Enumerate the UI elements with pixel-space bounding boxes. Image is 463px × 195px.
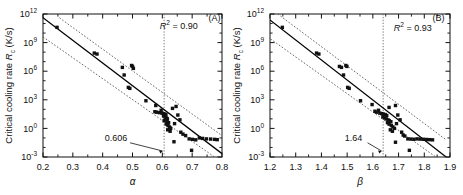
threshold-leader-line bbox=[130, 143, 163, 151]
data-point bbox=[176, 113, 179, 116]
x-tick-label: 1.5 bbox=[341, 162, 354, 172]
data-point bbox=[375, 110, 378, 113]
data-point bbox=[122, 73, 125, 76]
data-point bbox=[348, 87, 351, 90]
data-point bbox=[173, 122, 176, 125]
x-axis-title: α bbox=[130, 176, 136, 187]
data-point bbox=[55, 26, 58, 29]
data-point bbox=[121, 66, 124, 69]
data-point bbox=[172, 140, 175, 143]
panel-tag: (A) bbox=[209, 13, 221, 23]
y-tick-label: 106 bbox=[23, 64, 37, 76]
data-point bbox=[425, 138, 428, 141]
data-point bbox=[281, 26, 284, 29]
y-tick-label: 100 bbox=[250, 122, 264, 134]
y-tick-label: 10-3 bbox=[248, 150, 264, 162]
data-point bbox=[406, 137, 409, 140]
data-point bbox=[418, 137, 421, 140]
data-point bbox=[168, 130, 171, 133]
x-tick-label: 0.5 bbox=[126, 162, 139, 172]
upper-confidence-band bbox=[59, 18, 226, 139]
threshold-label: 0.606 bbox=[105, 133, 128, 143]
data-point bbox=[409, 137, 412, 140]
x-tick-label: 1.2 bbox=[264, 162, 277, 172]
data-point bbox=[171, 107, 174, 110]
data-point bbox=[396, 113, 399, 116]
data-point bbox=[394, 104, 397, 107]
data-point bbox=[431, 138, 434, 141]
data-layer bbox=[43, 14, 226, 157]
data-point bbox=[340, 66, 343, 69]
data-point bbox=[370, 103, 373, 106]
data-point bbox=[216, 138, 219, 141]
x-tick-label: 1.3 bbox=[289, 162, 302, 172]
data-point bbox=[95, 52, 98, 55]
y-tick-label: 106 bbox=[250, 64, 264, 76]
y-tick-label: 103 bbox=[250, 93, 264, 105]
data-point bbox=[162, 119, 165, 122]
x-tick-label: 1.7 bbox=[392, 162, 405, 172]
data-point bbox=[428, 138, 431, 141]
data-point bbox=[342, 73, 345, 76]
y-tick-label: 109 bbox=[250, 36, 264, 48]
data-point bbox=[403, 134, 406, 137]
data-point bbox=[391, 130, 394, 133]
x-tick-label: 0.6 bbox=[156, 162, 169, 172]
x-tick-label: 1.8 bbox=[418, 162, 431, 172]
data-point bbox=[422, 138, 425, 141]
r-squared-annotation: R2 = 0.93 bbox=[394, 21, 432, 33]
data-point bbox=[387, 106, 390, 109]
data-point bbox=[394, 141, 397, 144]
data-point bbox=[412, 138, 415, 141]
panel-a-svg: 0.20.30.40.50.60.70.810-3100103106109101… bbox=[0, 0, 232, 195]
y-tick-label: 1012 bbox=[20, 7, 38, 19]
data-point bbox=[395, 122, 398, 125]
panel-b-plot-area: 1.21.31.41.51.61.71.81.910-3100103106109… bbox=[231, 7, 456, 187]
data-point bbox=[132, 67, 135, 70]
data-point bbox=[178, 118, 181, 121]
data-point bbox=[408, 149, 411, 152]
y-axis-title: Critical cooling rate Rc (K/s) bbox=[3, 27, 16, 143]
figure-root: 0.20.30.40.50.60.70.810-3100103106109101… bbox=[0, 0, 463, 195]
regression-line bbox=[43, 18, 226, 157]
y-axis-title: Critical cooling rate Rc (K/s) bbox=[231, 27, 244, 143]
y-tick-label: 1012 bbox=[247, 7, 265, 19]
x-tick-label: 1.4 bbox=[315, 162, 328, 172]
x-tick-label: 0.8 bbox=[216, 162, 229, 172]
data-point bbox=[190, 149, 193, 152]
threshold-leader-line bbox=[368, 143, 382, 151]
data-point bbox=[205, 137, 208, 140]
data-point bbox=[187, 137, 190, 140]
x-tick-label: 1.6 bbox=[367, 162, 380, 172]
data-point bbox=[128, 87, 131, 90]
data-point bbox=[345, 65, 348, 68]
data-point bbox=[191, 138, 194, 141]
data-point bbox=[359, 99, 362, 102]
r-squared-annotation: R2 = 0.90 bbox=[160, 19, 198, 31]
threshold-label: 1.64 bbox=[345, 133, 363, 143]
data-point bbox=[317, 52, 320, 55]
data-point bbox=[154, 104, 157, 107]
x-tick-label: 0.7 bbox=[186, 162, 199, 172]
data-point bbox=[398, 118, 401, 121]
panel-a-plot-area: 0.20.30.40.50.60.70.810-3100103106109101… bbox=[3, 7, 228, 187]
x-tick-label: 1.9 bbox=[444, 162, 457, 172]
chart-panel-a: 0.20.30.40.50.60.70.810-3100103106109101… bbox=[0, 0, 232, 195]
chart-panel-b: 1.21.31.41.51.61.71.81.910-3100103106109… bbox=[228, 0, 463, 195]
y-tick-label: 109 bbox=[23, 36, 37, 48]
y-tick-label: 100 bbox=[23, 122, 37, 134]
x-tick-label: 0.3 bbox=[67, 162, 80, 172]
panel-tag: (B) bbox=[432, 13, 444, 23]
data-point bbox=[198, 136, 201, 139]
x-axis-title: β bbox=[356, 176, 363, 187]
data-point bbox=[201, 137, 204, 140]
data-point bbox=[415, 137, 418, 140]
y-tick-label: 10-3 bbox=[21, 150, 37, 162]
data-point bbox=[209, 137, 212, 140]
y-tick-label: 103 bbox=[23, 93, 37, 105]
data-point bbox=[174, 105, 177, 108]
panel-b-svg: 1.21.31.41.51.61.71.81.910-3100103106109… bbox=[228, 0, 463, 195]
data-point bbox=[194, 138, 197, 141]
x-tick-label: 0.2 bbox=[37, 162, 50, 172]
data-point bbox=[144, 99, 147, 102]
